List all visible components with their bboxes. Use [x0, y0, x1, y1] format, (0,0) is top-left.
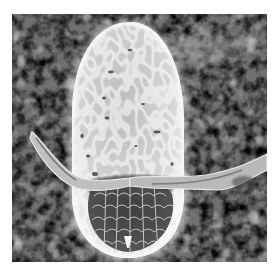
- substrate-highlight: [167, 35, 257, 63]
- right-float-shadow: [232, 176, 256, 188]
- micrograph-svg: [12, 14, 267, 262]
- micrograph-photo: [12, 14, 267, 262]
